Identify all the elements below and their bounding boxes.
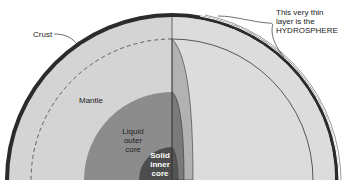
outer-core-label-line-2: outer	[118, 136, 148, 145]
outer-core-label-line-1: Liquid	[118, 127, 148, 136]
crust-label: Crust	[33, 30, 52, 39]
mantle-label: Mantle	[79, 96, 103, 105]
inner-core-label-line-1: Solid	[148, 151, 172, 160]
outer-core-label-line-3: core	[118, 145, 148, 154]
hydrosphere-label-line-2: layer is the	[276, 17, 338, 26]
inner-core-label-line-3: core	[148, 169, 172, 178]
outer-core-label: Liquid outer core	[118, 127, 148, 154]
crust-leader-line	[54, 34, 77, 44]
hydrosphere-label-line-3: HYDROSPHERE	[276, 26, 338, 35]
hydrosphere-label: This very thin layer is the HYDROSPHERE	[276, 8, 338, 35]
hydrosphere-label-line-1: This very thin	[276, 8, 338, 17]
inner-core-label-line-2: inner	[148, 160, 172, 169]
inner-core-label: Solid inner core	[148, 151, 172, 178]
